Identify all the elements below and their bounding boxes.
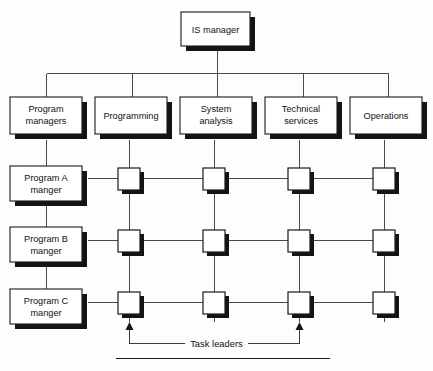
node-program-0[interactable]: Program A manger (10, 166, 87, 206)
program-2-box (10, 289, 82, 324)
is-manager-label: IS manager (192, 25, 240, 35)
matrix-cell-r1c3[interactable] (288, 168, 314, 194)
cell-r2c4-box (373, 230, 395, 252)
node-is-manager[interactable]: IS manager (181, 12, 255, 51)
department-0-label-line2: managers (26, 116, 67, 126)
program-0-box (10, 166, 82, 201)
matrix-cell-r2c3[interactable] (288, 230, 314, 256)
cell-r2c1-box (118, 230, 140, 252)
matrix-cell-r1c1[interactable] (118, 168, 144, 194)
matrix-cell-r3c3[interactable] (288, 292, 314, 318)
task-leader-line-left (130, 330, 186, 344)
matrix-cells (118, 168, 399, 318)
department-1-label-line1: Programming (103, 111, 158, 121)
org-chart-canvas: IS manager Program managers Programming (0, 0, 433, 371)
department-4-label-line1: Operations (364, 111, 409, 121)
program-1-label-line1: Program B (24, 234, 68, 244)
program-2-label-line2: manger (30, 308, 61, 318)
matrix-cell-r2c1[interactable] (118, 230, 144, 256)
department-3-label-line1: Technical (282, 104, 320, 114)
node-department-0[interactable]: Program managers (10, 97, 87, 139)
matrix-cell-r3c4[interactable] (373, 292, 399, 318)
department-2-label-line1: System (201, 104, 232, 114)
cell-r3c1-box (118, 292, 140, 314)
cell-r1c3-box (288, 168, 310, 190)
department-0-label-line1: Program (28, 104, 64, 114)
cell-r3c2-box (203, 292, 225, 314)
matrix-cell-r3c1[interactable] (118, 292, 144, 318)
task-leader-line-right (248, 330, 300, 344)
node-program-1[interactable]: Program B manger (10, 227, 87, 267)
task-leader-arrow-right (296, 322, 304, 330)
program-nodes: Program A manger Program B manger Progra… (10, 166, 87, 329)
cell-r3c3-box (288, 292, 310, 314)
cell-r3c4-box (373, 292, 395, 314)
node-department-2[interactable]: System analysis (180, 97, 257, 139)
task-leader-arrow-left (126, 322, 134, 330)
matrix-cell-r3c2[interactable] (203, 292, 229, 318)
department-3-label-line2: services (284, 116, 318, 126)
matrix-cell-r1c2[interactable] (203, 168, 229, 194)
program-1-box (10, 227, 82, 262)
program-0-label-line2: manger (30, 185, 61, 195)
node-program-2[interactable]: Program C manger (10, 289, 87, 329)
org-chart-diagram: IS manager Program managers Programming (0, 0, 433, 371)
department-2-label-line2: analysis (199, 116, 233, 126)
node-department-4[interactable]: Operations (350, 97, 427, 139)
cell-r1c1-box (118, 168, 140, 190)
matrix-cell-r1c4[interactable] (373, 168, 399, 194)
node-department-1[interactable]: Programming (95, 97, 172, 139)
cell-r1c4-box (373, 168, 395, 190)
matrix-cell-r2c2[interactable] (203, 230, 229, 256)
matrix-cell-r2c4[interactable] (373, 230, 399, 256)
cell-r2c3-box (288, 230, 310, 252)
department-nodes: Program managers Programming System anal… (10, 97, 427, 139)
cell-r2c2-box (203, 230, 225, 252)
program-0-label-line1: Program A (24, 173, 68, 183)
task-leaders-label: Task leaders (190, 338, 243, 349)
node-department-3[interactable]: Technical services (265, 97, 342, 139)
cell-r1c2-box (203, 168, 225, 190)
task-leaders-callout: Task leaders (126, 322, 304, 349)
program-1-label-line2: manger (30, 246, 61, 256)
program-2-label-line1: Program C (24, 296, 69, 306)
